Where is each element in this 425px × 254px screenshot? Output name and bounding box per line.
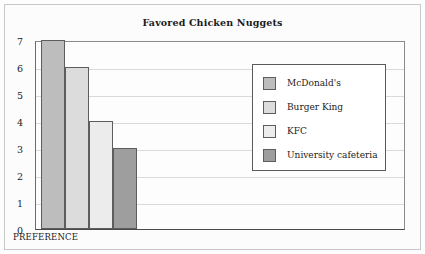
bar (113, 148, 137, 229)
bar (41, 40, 65, 229)
chart-title: Favored Chicken Nuggets (0, 17, 425, 28)
legend-item: Burger King (263, 98, 343, 116)
y-tick-label: 1 (17, 198, 23, 209)
y-tick-label: 5 (17, 90, 23, 101)
legend-item-label: Burger King (287, 102, 343, 112)
y-tick-label: 6 (17, 63, 23, 74)
y-tick-label: 4 (17, 117, 23, 128)
legend-swatch-icon (263, 101, 276, 114)
y-tick-label: 2 (17, 171, 23, 182)
legend-item: University cafeteria (263, 146, 378, 164)
chart-legend: McDonald'sBurger KingKFCUniversity cafet… (252, 64, 386, 171)
legend-item-label: KFC (287, 126, 307, 136)
legend-swatch-icon (263, 77, 276, 90)
y-tick-label: 3 (17, 144, 23, 155)
legend-item: KFC (263, 122, 307, 140)
x-axis-label: PREFERENCE (13, 232, 78, 242)
legend-swatch-icon (263, 149, 276, 162)
y-tick-label: 7 (17, 36, 23, 47)
y-axis-tick-labels: 76543210 (0, 41, 30, 230)
legend-item-label: University cafeteria (287, 150, 378, 160)
legend-item-label: McDonald's (287, 78, 341, 88)
legend-swatch-icon (263, 125, 276, 138)
legend-item: McDonald's (263, 74, 341, 92)
figure-container: Favored Chicken Nuggets 76543210 PREFERE… (0, 0, 425, 254)
bar (65, 67, 89, 229)
bar (89, 121, 113, 229)
